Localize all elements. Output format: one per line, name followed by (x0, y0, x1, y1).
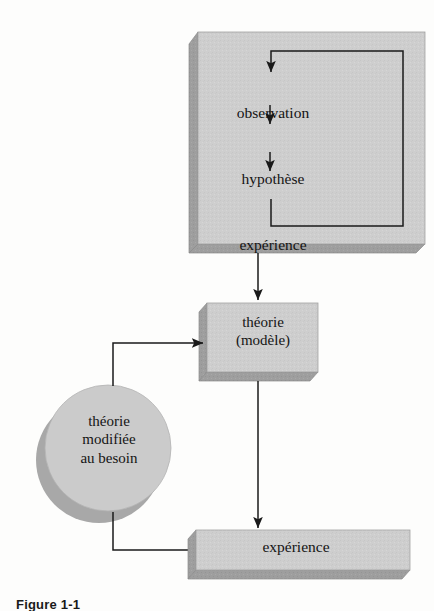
edge-theorie-modifiee-to-theorie (113, 343, 203, 386)
figure-caption: Figure 1-1 (16, 597, 80, 611)
theorie-modifiee-circle-shape (36, 385, 171, 523)
edge-experience-to-theorie-modifiee (113, 512, 196, 550)
experience-box-shape (188, 530, 410, 579)
cycle-box-shape (189, 32, 425, 253)
theorie-box-shape (199, 303, 318, 381)
figure-container: observation hypothèse expérience théorie… (0, 0, 434, 611)
diagram-canvas (0, 0, 434, 611)
